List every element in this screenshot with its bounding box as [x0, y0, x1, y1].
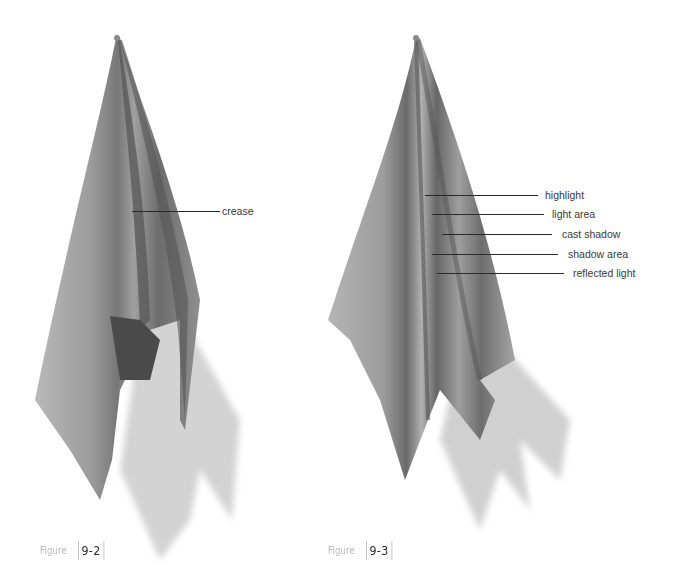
caption-word: Figure [40, 545, 67, 556]
reflected-light-leader-line [437, 273, 564, 274]
figure-caption: Figure 9-2 [40, 539, 108, 561]
label-highlight: highlight [545, 189, 584, 201]
caption-number: 9-3 [366, 541, 392, 560]
cloth-drape-illustration [320, 0, 674, 581]
label-reflected-light: reflected light [573, 267, 635, 279]
figure-caption: Figure 9-3 [328, 539, 396, 561]
label-light-area: light area [552, 208, 595, 220]
light-area-leader-line [432, 214, 544, 215]
label-shadow-area: shadow area [568, 248, 628, 260]
cloth-drape-illustration [0, 0, 330, 581]
label-crease: crease [222, 205, 254, 217]
figure-9-2: crease Figure 9-2 [0, 0, 330, 581]
figure-9-3: highlight light area cast shadow shadow … [320, 0, 674, 581]
highlight-leader-line [425, 195, 538, 196]
cast-shadow-leader-line [442, 234, 552, 235]
label-cast-shadow: cast shadow [562, 228, 620, 240]
shadow-area-leader-line [432, 254, 558, 255]
caption-word: Figure [328, 545, 355, 556]
crease-leader-line [132, 211, 220, 212]
caption-number: 9-2 [78, 541, 104, 560]
